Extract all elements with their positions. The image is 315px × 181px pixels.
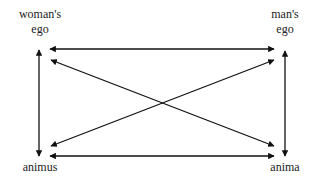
node-anima: anima	[245, 160, 315, 175]
node-womans-ego-line2: ego	[0, 22, 80, 37]
node-mans-ego-line2: ego	[245, 22, 315, 37]
node-womans-ego-line1: woman's	[0, 7, 80, 22]
node-mans-ego: man's ego	[245, 7, 315, 37]
node-mans-ego-line1: man's	[245, 7, 315, 22]
node-womans-ego: woman's ego	[0, 7, 80, 37]
node-animus: animus	[0, 160, 80, 175]
